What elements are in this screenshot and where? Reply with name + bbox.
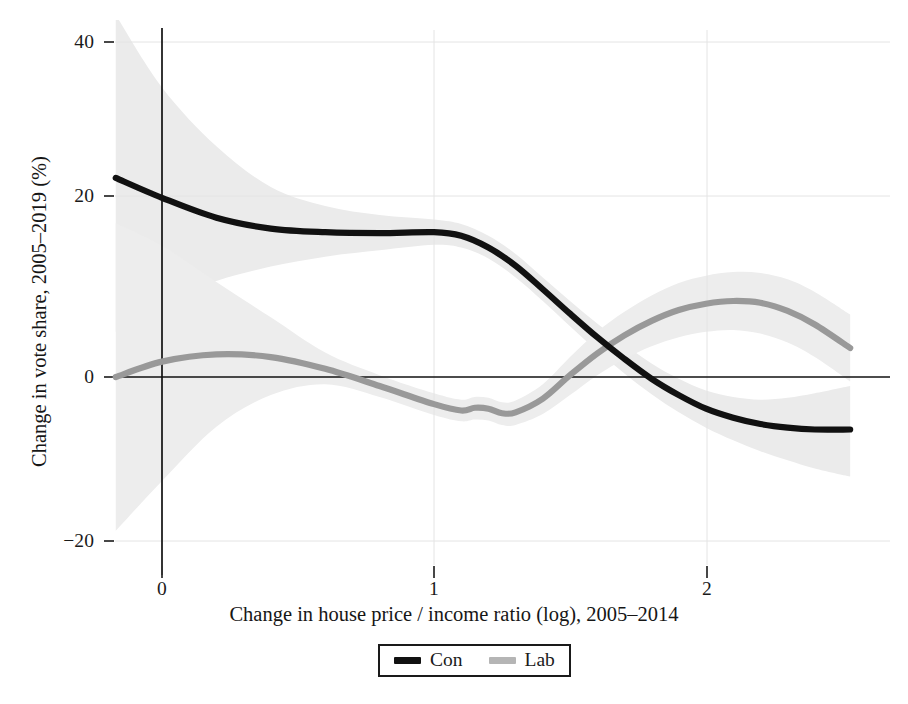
chart-figure: 40 20 0 −20 0 1 2 Change in vote share, … [0, 0, 908, 704]
legend-label-con: Con [430, 649, 463, 671]
x-axis-title: Change in house price / income ratio (lo… [0, 603, 908, 626]
xtick-label-0: 0 [132, 578, 192, 600]
legend-entry-lab[interactable]: Lab [489, 649, 555, 671]
chart-legend: Con Lab [378, 644, 571, 677]
legend-swatch-con-icon [394, 657, 421, 664]
xtick-label-1: 1 [404, 578, 464, 600]
legend-label-lab: Lab [525, 649, 555, 671]
xtick-label-2: 2 [677, 578, 737, 600]
ytick-label-40: 40 [38, 31, 94, 53]
y-axis-title: Change in vote share, 2005–2019 (%) [28, 77, 51, 547]
confidence-bands [116, 15, 850, 531]
legend-entry-con[interactable]: Con [394, 649, 463, 671]
legend-swatch-lab-icon [489, 657, 516, 664]
